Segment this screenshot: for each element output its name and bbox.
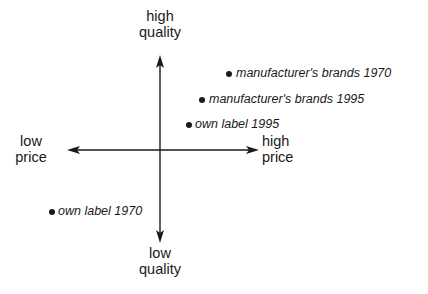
axis-label-high-quality: high quality	[106, 9, 214, 40]
data-point-dot	[186, 122, 192, 128]
data-point-label: own label 1970	[58, 205, 142, 218]
data-point-label: manufacturer's brands 1995	[209, 93, 364, 106]
data-point-own-label-1995: own label 1995	[186, 118, 279, 131]
axis-label-high-price: high price	[262, 134, 324, 165]
positioning-map-figure: high quality low quality low price high …	[0, 0, 428, 294]
data-point-label: manufacturer's brands 1970	[236, 67, 391, 80]
data-point-dot	[226, 71, 232, 77]
data-point-dot	[199, 97, 205, 103]
data-point-dot	[49, 209, 55, 215]
data-point-own-label-1970: own label 1970	[49, 205, 142, 218]
axis-label-low-quality: low quality	[106, 246, 214, 277]
axes-group	[0, 0, 428, 294]
data-point-manufacturers-brands-1995: manufacturer's brands 1995	[199, 93, 364, 106]
data-point-manufacturers-brands-1970: manufacturer's brands 1970	[226, 67, 391, 80]
data-point-label: own label 1995	[195, 118, 279, 131]
axis-label-low-price: low price	[2, 134, 60, 165]
